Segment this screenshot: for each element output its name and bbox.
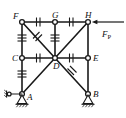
member-DH xyxy=(55,22,88,58)
support-B-ground-hatching xyxy=(82,105,93,108)
support-A-link-hatching xyxy=(4,90,6,97)
member-DA xyxy=(22,58,55,94)
label-A: A xyxy=(26,92,33,102)
truss-figure: F G H C D E A B FP xyxy=(0,0,126,118)
member-FD xyxy=(22,22,55,58)
label-H: H xyxy=(84,10,92,20)
label-D: D xyxy=(52,61,60,71)
support-A-pin-triangle xyxy=(17,95,27,104)
joint-F xyxy=(20,20,25,25)
joint-C xyxy=(20,56,25,61)
support-A-ground-hatching xyxy=(16,105,27,108)
label-F: F xyxy=(12,11,19,21)
label-B: B xyxy=(93,89,99,99)
truss-diagram-canvas: F G H C D E A B FP xyxy=(0,0,126,118)
support-B-pin-triangle xyxy=(83,95,93,104)
joint-G xyxy=(53,20,58,25)
load-label-subscript: P xyxy=(108,33,112,40)
label-E: E xyxy=(92,53,99,63)
label-G: G xyxy=(52,10,59,20)
tick-FD xyxy=(33,32,42,41)
load-arrow-FP xyxy=(92,20,124,24)
load-label-FP: FP xyxy=(101,29,112,40)
support-A-link-pin xyxy=(7,92,11,96)
label-C: C xyxy=(12,53,19,63)
joint-E xyxy=(86,56,91,61)
joint-D xyxy=(53,56,58,61)
joint-H xyxy=(86,20,91,25)
load-arrow-head xyxy=(92,20,98,24)
support-A xyxy=(4,90,28,107)
member-DB xyxy=(55,58,88,94)
